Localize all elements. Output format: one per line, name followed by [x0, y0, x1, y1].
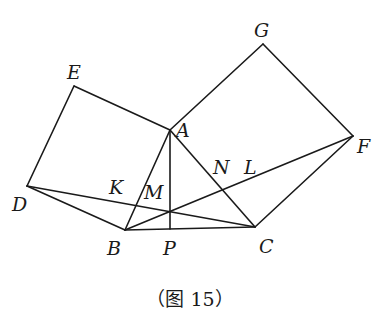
segment-ed	[27, 86, 74, 186]
point-label-k: K	[108, 176, 125, 198]
point-label-g: G	[254, 19, 269, 41]
point-label-b: B	[106, 237, 121, 259]
point-label-c: C	[259, 235, 274, 257]
point-label-d: D	[11, 193, 27, 215]
segment-gf	[263, 44, 353, 136]
point-label-l: L	[243, 156, 257, 178]
segment-ca	[170, 130, 255, 227]
point-label-a: A	[174, 119, 190, 141]
point-label-n: N	[212, 156, 231, 178]
point-label-m: M	[143, 181, 164, 203]
segment-fc	[255, 136, 353, 227]
figure-labels: ABCDEFGKMNLP	[11, 19, 371, 259]
geometry-figure: ABCDEFGKMNLP	[0, 0, 380, 327]
point-label-f: F	[356, 135, 371, 157]
segment-bc	[125, 227, 255, 230]
point-label-e: E	[66, 61, 81, 83]
figure-caption: （图 15）	[0, 284, 380, 311]
segment-ae	[74, 86, 170, 130]
segment-ag	[170, 44, 263, 130]
segment-dc	[27, 186, 255, 227]
point-label-p: P	[162, 237, 177, 259]
